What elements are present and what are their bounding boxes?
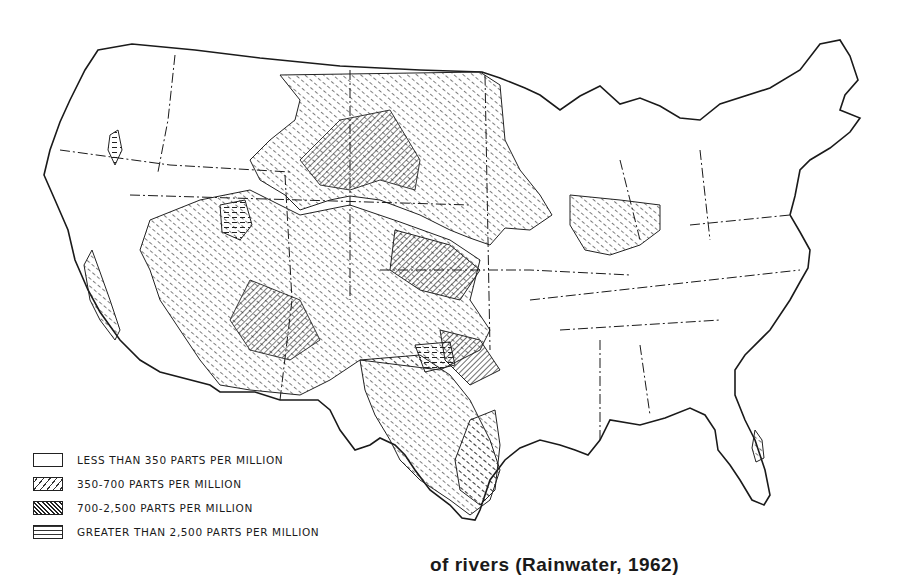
legend-label: 700-2,500 PARTS PER MILLION [77, 502, 253, 514]
legend-item-700-2500: 700-2,500 PARTS PER MILLION [33, 496, 319, 520]
legend-label: 350-700 PARTS PER MILLION [77, 478, 242, 490]
legend-item-over-2500: GREATER THAN 2,500 PARTS PER MILLION [33, 520, 319, 544]
swatch-blank-icon [33, 453, 63, 467]
swatch-horizontal-dash-icon [33, 525, 63, 539]
legend-label: GREATER THAN 2,500 PARTS PER MILLION [77, 526, 319, 538]
legend-label: LESS THAN 350 PARTS PER MILLION [77, 454, 283, 466]
swatch-dense-hatch-icon [33, 501, 63, 515]
legend-item-less-350: LESS THAN 350 PARTS PER MILLION [33, 448, 319, 472]
figure-caption: of rivers (Rainwater, 1962) [430, 554, 679, 576]
legend-item-350-700: 350-700 PARTS PER MILLION [33, 472, 319, 496]
swatch-light-hatch-icon [33, 477, 63, 491]
map-legend: LESS THAN 350 PARTS PER MILLION 350-700 … [33, 448, 319, 544]
